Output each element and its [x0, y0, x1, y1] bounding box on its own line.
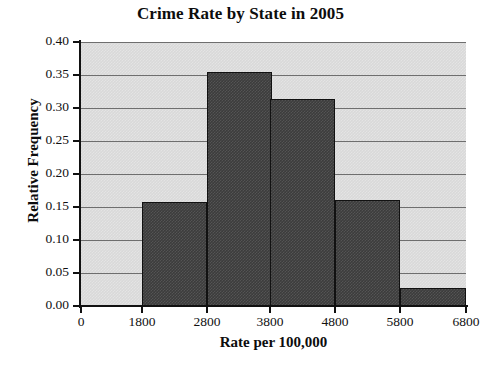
x-axis-tick-label: 6800: [436, 314, 481, 330]
histogram-figure: Crime Rate by State in 2005 0.40 0.35 0.…: [0, 0, 481, 367]
y-axis-tick: [73, 107, 81, 109]
x-axis-tick: [141, 305, 143, 313]
histogram-bar: [270, 99, 335, 306]
x-axis-tick: [465, 305, 467, 313]
x-axis-tick-label: 1800: [112, 314, 172, 330]
y-axis-tick: [73, 239, 81, 241]
y-axis-tick: [73, 173, 81, 175]
histogram-bar: [207, 72, 272, 306]
x-axis-tick: [334, 305, 336, 313]
x-axis-tick-label: 3800: [240, 314, 300, 330]
y-axis-tick: [73, 74, 81, 76]
x-axis-tick-label: 2800: [177, 314, 237, 330]
x-axis-tick: [399, 305, 401, 313]
x-axis-tick-label: 5800: [370, 314, 430, 330]
y-axis-tick: [73, 41, 81, 43]
histogram-bar: [335, 200, 400, 306]
histogram-bar: [142, 202, 207, 306]
x-axis-tick: [269, 305, 271, 313]
y-axis-title: Relative Frequency: [25, 41, 42, 281]
x-axis-tick: [80, 305, 82, 313]
x-axis-tick-label: 4800: [305, 314, 365, 330]
chart-title: Crime Rate by State in 2005: [0, 4, 481, 24]
x-axis-tick-label: 0: [51, 314, 111, 330]
plot-area: [81, 42, 466, 306]
y-axis-tick: [73, 206, 81, 208]
y-axis-tick: [73, 140, 81, 142]
gridline-0.35: [81, 75, 466, 76]
x-axis-title: Rate per 100,000: [81, 334, 466, 351]
x-axis-tick: [206, 305, 208, 313]
histogram-bar: [400, 288, 466, 306]
gridline-0.40: [81, 42, 466, 43]
x-axis-spine: [79, 305, 468, 307]
y-axis-tick: [73, 272, 81, 274]
y-axis-tick-label: 0.00: [27, 297, 69, 313]
